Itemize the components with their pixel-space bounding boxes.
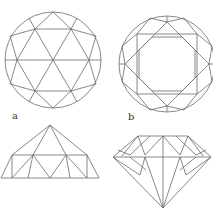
brilliant-cut-side-view [113, 136, 211, 208]
label-a: a [12, 111, 18, 121]
rose-cut-top-view [5, 12, 101, 108]
diamond-cuts-figure [0, 0, 213, 221]
rose-cut-side-view [1, 125, 99, 178]
label-b: b [128, 112, 134, 122]
brilliant-cut-top-view [119, 16, 213, 112]
